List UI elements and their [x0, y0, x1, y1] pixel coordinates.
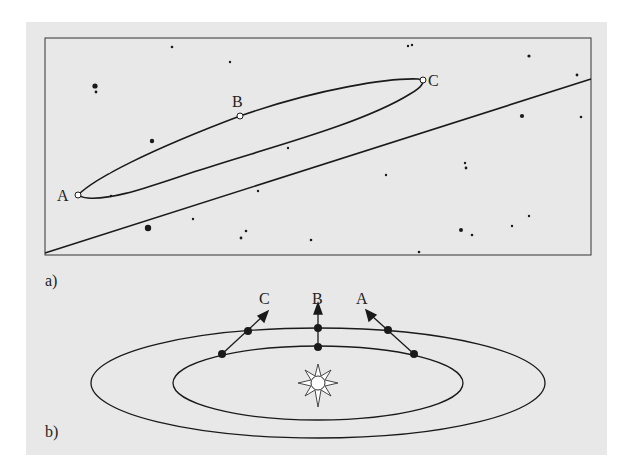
- star: [385, 174, 387, 176]
- panel-a-label: a): [45, 272, 57, 290]
- star: [95, 91, 98, 94]
- star: [418, 251, 421, 254]
- point-c-marker: [420, 77, 426, 83]
- sun-icon: [298, 364, 338, 407]
- star: [511, 225, 513, 227]
- point-c-label: C: [428, 72, 439, 89]
- sight-line-a: [372, 316, 414, 354]
- star: [310, 239, 313, 242]
- sky-frame: [45, 38, 591, 255]
- star: [471, 234, 474, 237]
- point-a-label: A: [57, 187, 69, 204]
- star: [520, 114, 524, 118]
- star: [527, 54, 530, 57]
- sight-line-c: [222, 317, 262, 354]
- arrowhead-a: [366, 310, 376, 321]
- star: [192, 218, 194, 220]
- sight-label-c: C: [259, 290, 270, 307]
- star: [257, 190, 259, 192]
- point-b-label: B: [232, 93, 243, 110]
- star: [580, 116, 583, 119]
- star: [407, 45, 409, 47]
- star: [92, 83, 97, 88]
- star: [229, 61, 231, 63]
- star: [528, 215, 530, 217]
- star: [411, 44, 413, 46]
- star: [240, 237, 243, 240]
- panel-b-label: b): [45, 423, 58, 441]
- arrowhead-c: [258, 311, 268, 322]
- star: [145, 225, 151, 231]
- figure-svg: A B C a) C B A b): [0, 0, 631, 464]
- star: [465, 167, 468, 170]
- star: [287, 147, 289, 149]
- star: [459, 228, 463, 232]
- star: [171, 46, 174, 49]
- sight-label-a: A: [356, 290, 368, 307]
- star: [150, 139, 154, 143]
- star: [245, 230, 248, 233]
- sight-label-b: B: [312, 290, 323, 307]
- star: [464, 162, 466, 164]
- ecliptic-line: [45, 79, 591, 253]
- background-stars: [92, 44, 582, 254]
- point-a-marker: [75, 192, 81, 198]
- retrograde-loop: [78, 79, 423, 198]
- point-b-marker: [237, 113, 243, 119]
- star: [576, 74, 579, 77]
